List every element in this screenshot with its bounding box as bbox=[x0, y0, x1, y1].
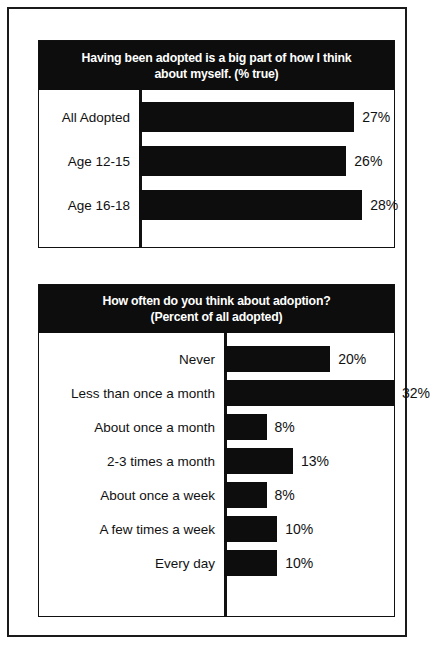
chart-2-value-2-3-times-a-month: 13% bbox=[293, 453, 329, 469]
chart-1-row-age-16-18: Age 16-18 28% bbox=[39, 190, 394, 220]
chart-2-label-about-once-a-month: About once a month bbox=[39, 420, 224, 435]
chart-2-row-never: Never 20% bbox=[39, 346, 394, 372]
chart-1-label-age-12-15: Age 12-15 bbox=[39, 154, 139, 169]
chart-2-bar-never bbox=[224, 346, 330, 372]
chart-2-label-2-3-times-a-month: 2-3 times a month bbox=[39, 454, 224, 469]
chart-1-bar-all-adopted bbox=[139, 102, 354, 132]
chart-1-title-line-1: Having been adopted is a big part of how… bbox=[82, 50, 352, 66]
chart-2-bar-less-than-once-a-month bbox=[224, 380, 394, 406]
chart-2-track-2-3-times-a-month: 13% bbox=[224, 448, 394, 474]
chart-1-label-age-16-18: Age 16-18 bbox=[39, 198, 139, 213]
chart-2-bar-about-once-a-week bbox=[224, 482, 267, 508]
chart-2-label-every-day: Every day bbox=[39, 556, 224, 571]
chart-2-value-about-once-a-week: 8% bbox=[267, 487, 295, 503]
chart-2-label-never: Never bbox=[39, 352, 224, 367]
chart-2-title-line-2: (Percent of all adopted) bbox=[151, 309, 283, 325]
chart-2-track-about-once-a-week: 8% bbox=[224, 482, 394, 508]
chart-2-row-about-once-a-week: About once a week 8% bbox=[39, 482, 394, 508]
chart-2-value-every-day: 10% bbox=[277, 555, 313, 571]
chart-2-track-about-once-a-month: 8% bbox=[224, 414, 394, 440]
chart-1-title-line-2: about myself. (% true) bbox=[154, 66, 278, 82]
chart-1-row-age-12-15: Age 12-15 26% bbox=[39, 146, 394, 176]
chart-1-track-age-12-15: 26% bbox=[139, 146, 394, 176]
chart-2-title: How often do you think about adoption? (… bbox=[39, 285, 394, 333]
chart-2-track-never: 20% bbox=[224, 346, 394, 372]
chart-2-label-a-few-times-a-week: A few times a week bbox=[39, 522, 224, 537]
chart-2-track-a-few-times-a-week: 10% bbox=[224, 516, 394, 542]
chart-2-track-every-day: 10% bbox=[224, 550, 394, 576]
chart-2-row-about-once-a-month: About once a month 8% bbox=[39, 414, 394, 440]
chart-1-value-age-12-15: 26% bbox=[346, 153, 382, 169]
chart-1-bar-rows: All Adopted 27% Age 12-15 26% bbox=[39, 102, 394, 220]
chart-1-title: Having been adopted is a big part of how… bbox=[39, 41, 394, 90]
chart-2-plot-area: Never 20% Less than once a month 32% bbox=[39, 333, 394, 616]
chart-2-label-less-than-once-a-month: Less than once a month bbox=[39, 386, 224, 401]
chart-2-row-a-few-times-a-week: A few times a week 10% bbox=[39, 516, 394, 542]
chart-2-row-2-3-times-a-month: 2-3 times a month 13% bbox=[39, 448, 394, 474]
chart-1-bar-age-16-18 bbox=[139, 190, 362, 220]
chart-1-label-all-adopted: All Adopted bbox=[39, 110, 139, 125]
chart-2-bar-2-3-times-a-month bbox=[224, 448, 293, 474]
chart-1-track-all-adopted: 27% bbox=[139, 102, 394, 132]
chart-2-row-every-day: Every day 10% bbox=[39, 550, 394, 576]
chart-1-value-all-adopted: 27% bbox=[354, 109, 390, 125]
chart-1-plot-area: All Adopted 27% Age 12-15 26% bbox=[39, 90, 394, 247]
chart-panel-adopted-identity: Having been adopted is a big part of how… bbox=[38, 40, 395, 248]
chart-1-bar-age-12-15 bbox=[139, 146, 346, 176]
chart-2-value-a-few-times-a-week: 10% bbox=[277, 521, 313, 537]
chart-panel-think-about-adoption: How often do you think about adoption? (… bbox=[38, 284, 395, 617]
chart-2-title-line-1: How often do you think about adoption? bbox=[102, 293, 330, 309]
chart-2-label-about-once-a-week: About once a week bbox=[39, 488, 224, 503]
chart-2-bar-rows: Never 20% Less than once a month 32% bbox=[39, 346, 394, 576]
chart-1-value-age-16-18: 28% bbox=[362, 197, 398, 213]
chart-1-row-all-adopted: All Adopted 27% bbox=[39, 102, 394, 132]
chart-1-track-age-16-18: 28% bbox=[139, 190, 394, 220]
chart-2-value-about-once-a-month: 8% bbox=[267, 419, 295, 435]
chart-2-value-less-than-once-a-month: 32% bbox=[394, 385, 430, 401]
chart-2-bar-a-few-times-a-week bbox=[224, 516, 277, 542]
chart-2-value-never: 20% bbox=[330, 351, 366, 367]
chart-2-row-less-than-once-a-month: Less than once a month 32% bbox=[39, 380, 394, 406]
chart-2-bar-about-once-a-month bbox=[224, 414, 267, 440]
chart-2-bar-every-day bbox=[224, 550, 277, 576]
outer-border-frame: Having been adopted is a big part of how… bbox=[7, 7, 407, 637]
chart-2-track-less-than-once-a-month: 32% bbox=[224, 380, 394, 406]
